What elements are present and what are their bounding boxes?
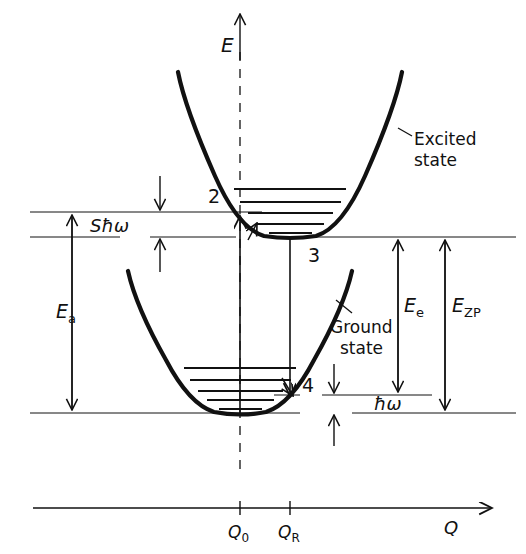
energy-axis-label: E [221, 33, 234, 57]
canvas-background [0, 0, 526, 554]
process-number-4: 4 [302, 374, 314, 396]
coordinate-axis-label: Q [444, 517, 458, 538]
stokes-shift-label: Sħω [90, 215, 129, 236]
phonon-energy-label: ħω [374, 393, 402, 414]
process-number-3: 3 [308, 244, 320, 266]
process-number-2: 2 [208, 185, 220, 207]
configuration-coordinate-diagram: E Q0 QR Q [0, 0, 526, 554]
